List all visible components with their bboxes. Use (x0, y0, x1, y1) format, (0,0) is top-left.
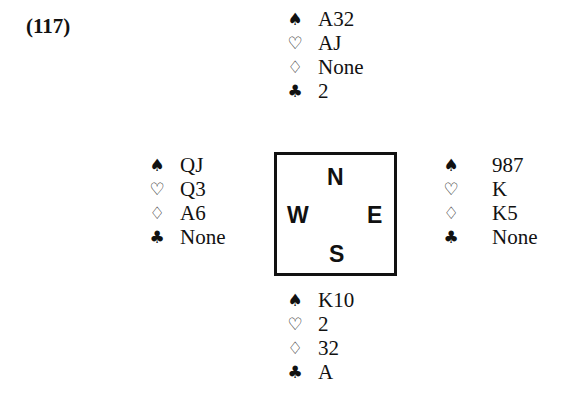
heart-icon: ♡ (146, 177, 168, 201)
heart-icon: ♡ (440, 177, 462, 201)
diamond-icon: ♢ (146, 201, 168, 225)
spade-icon: ♠ (284, 288, 306, 312)
diamond-icon: ♢ (440, 201, 462, 225)
heart-icon: ♡ (284, 31, 306, 55)
spade-icon: ♠ (440, 153, 462, 177)
compass-box: N W E S (274, 152, 397, 276)
club-icon: ♣ (146, 225, 168, 249)
compass-east: E (367, 203, 382, 227)
club-icon: ♣ (440, 225, 462, 249)
diamond-icon: ♢ (284, 336, 306, 360)
club-icon: ♣ (284, 360, 306, 384)
compass-west: W (287, 203, 309, 227)
spade-icon: ♠ (146, 153, 168, 177)
compass-north: N (327, 165, 344, 189)
heart-icon: ♡ (284, 312, 306, 336)
spade-icon: ♠ (284, 7, 306, 31)
compass-south: S (329, 242, 344, 266)
diamond-icon: ♢ (284, 55, 306, 79)
problem-number: (117) (26, 14, 70, 39)
club-icon: ♣ (284, 79, 306, 103)
